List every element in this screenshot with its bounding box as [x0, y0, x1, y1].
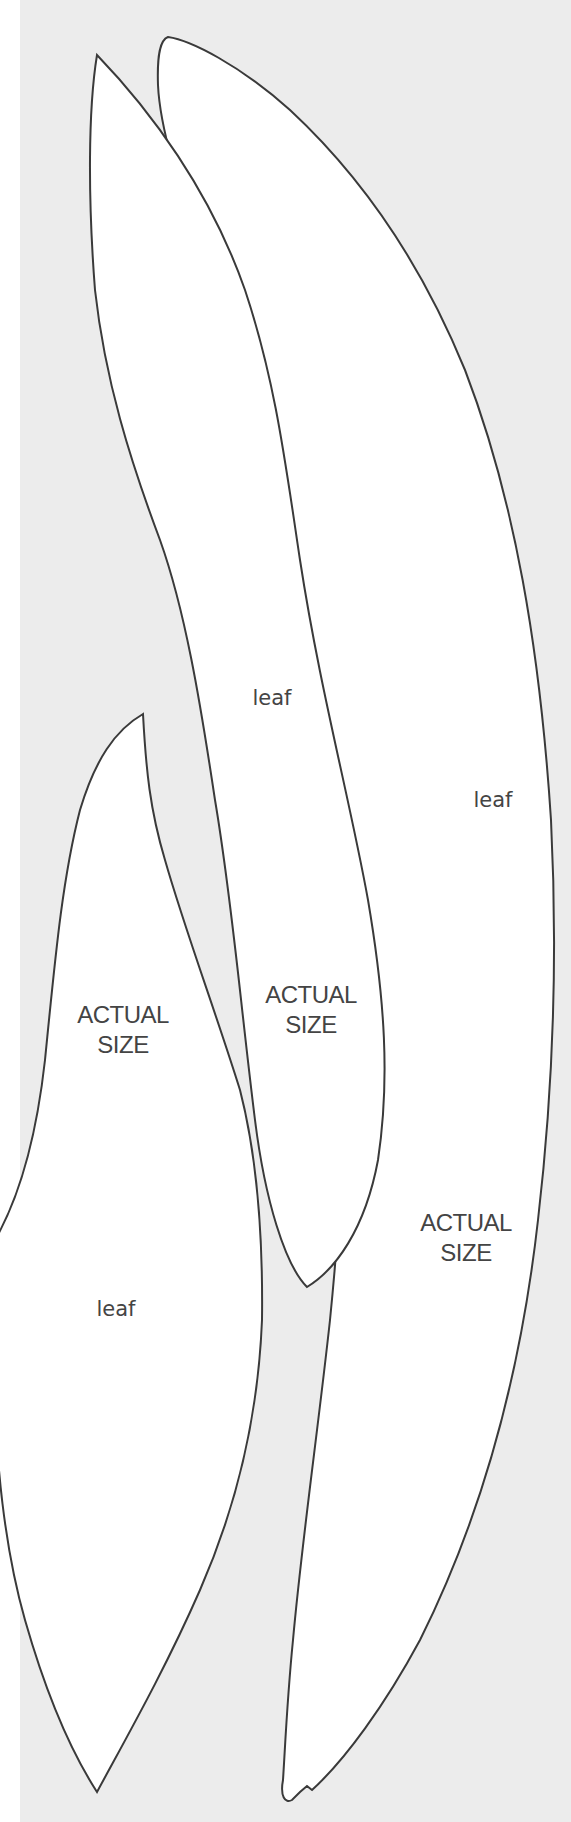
size-label-line1: ACTUAL — [265, 980, 357, 1010]
leaf-templates — [0, 0, 571, 1822]
size-label-line2: SIZE — [265, 1010, 357, 1040]
middle-leaf-size-label: ACTUAL SIZE — [265, 980, 357, 1040]
size-label-line2: SIZE — [420, 1238, 512, 1268]
left-leaf-name-label: leaf — [96, 1297, 135, 1321]
left-leaf-size-label: ACTUAL SIZE — [77, 1000, 169, 1060]
size-label-line1: ACTUAL — [420, 1208, 512, 1238]
size-label-line2: SIZE — [77, 1030, 169, 1060]
size-label-line1: ACTUAL — [77, 1000, 169, 1030]
right-leaf-size-label: ACTUAL SIZE — [420, 1208, 512, 1268]
right-leaf-name-label: leaf — [473, 788, 512, 812]
left-leaf-outline — [0, 714, 262, 1792]
middle-leaf-name-label: leaf — [252, 686, 291, 710]
